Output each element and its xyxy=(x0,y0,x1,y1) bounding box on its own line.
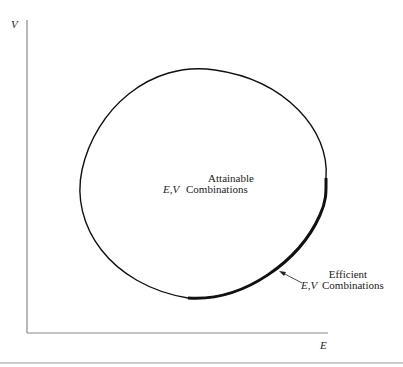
diagram: V E Attainable E,V Combinations Efficien… xyxy=(0,0,403,367)
frontier-label-ev: E,V xyxy=(301,279,317,291)
region-label-line2: Combinations xyxy=(186,183,248,195)
x-axis-label: E xyxy=(320,339,327,351)
frontier-label-line2: Combinations xyxy=(322,279,384,291)
y-axis-label: V xyxy=(11,18,18,30)
region-label-ev: E,V xyxy=(163,183,179,195)
arrow-head-icon xyxy=(279,271,286,276)
